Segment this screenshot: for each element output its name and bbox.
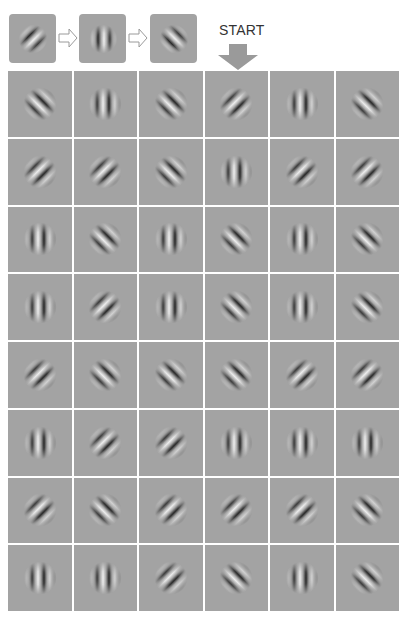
gabor-patch-icon xyxy=(205,342,269,407)
gabor-patch-icon xyxy=(270,478,334,543)
grid-cell-r5-c6 xyxy=(336,342,400,408)
grid-cell-r4-c5 xyxy=(270,274,334,340)
gabor-patch-icon xyxy=(270,139,334,204)
gabor-patch-icon xyxy=(8,342,72,407)
grid-cell-r1-c1 xyxy=(8,71,72,137)
gabor-patch-icon xyxy=(213,149,259,195)
grid-cell-r4-c2 xyxy=(74,274,138,340)
gabor-patch-icon xyxy=(8,478,72,543)
grid-cell-r6-c6 xyxy=(336,410,400,476)
gabor-patch-icon xyxy=(270,342,334,407)
grid-cell-r1-c5 xyxy=(270,71,334,137)
grid-cell-r2-c1 xyxy=(8,139,72,205)
gabor-patch-icon xyxy=(139,410,203,475)
gabor-patch-icon xyxy=(74,342,138,407)
grid-cell-r7-c4 xyxy=(205,478,269,544)
grid-cell-r6-c3 xyxy=(139,410,203,476)
gabor-patch-icon xyxy=(8,71,72,136)
grid-cell-r1-c4 xyxy=(205,71,269,137)
gabor-patch-icon xyxy=(8,139,72,204)
grid-cell-r5-c2 xyxy=(74,342,138,408)
gabor-patch-icon xyxy=(205,207,269,272)
grid-cell-r4-c3 xyxy=(139,274,203,340)
gabor-patch-icon xyxy=(74,275,138,340)
grid-cell-r8-c3 xyxy=(139,545,203,611)
gabor-patch-icon xyxy=(139,478,203,543)
grid-cell-r2-c5 xyxy=(270,139,334,205)
grid-cell-r1-c6 xyxy=(336,71,400,137)
gabor-patch-icon xyxy=(74,207,138,272)
gabor-patch-icon xyxy=(279,216,325,262)
grid-cell-r8-c6 xyxy=(336,545,400,611)
grid-cell-r5-c4 xyxy=(205,342,269,408)
gabor-patch-icon xyxy=(139,71,203,136)
grid-cell-r8-c5 xyxy=(270,545,334,611)
gabor-patch-icon xyxy=(205,478,269,543)
gabor-patch-icon xyxy=(279,555,325,601)
gabor-patch-icon xyxy=(205,71,269,136)
hollow-right-arrow-icon xyxy=(128,27,148,49)
gabor-patch-icon xyxy=(139,139,203,204)
grid-cell-r4-c1 xyxy=(8,274,72,340)
grid-cell-r6-c5 xyxy=(270,410,334,476)
grid-cell-r3-c5 xyxy=(270,207,334,273)
gabor-patch-icon xyxy=(336,139,400,204)
grid-cell-r8-c2 xyxy=(74,545,138,611)
gabor-patch-icon xyxy=(74,478,138,543)
grid-cell-r3-c2 xyxy=(74,207,138,273)
gabor-patch-icon xyxy=(336,478,400,543)
grid-cell-r6-c2 xyxy=(74,410,138,476)
gabor-grid xyxy=(8,71,399,611)
gabor-patch-icon xyxy=(279,81,325,127)
grid-cell-r7-c1 xyxy=(8,478,72,544)
gabor-patch-icon xyxy=(213,420,259,466)
grid-cell-r3-c3 xyxy=(139,207,203,273)
down-arrow-icon xyxy=(218,44,258,70)
grid-cell-r7-c6 xyxy=(336,478,400,544)
grid-cell-r2-c3 xyxy=(139,139,203,205)
gabor-patch-icon xyxy=(336,275,400,340)
sequence-legend: START xyxy=(0,0,405,70)
grid-cell-r5-c5 xyxy=(270,342,334,408)
gabor-patch-icon xyxy=(205,546,269,611)
gabor-patch-icon xyxy=(83,19,123,59)
gabor-patch-icon xyxy=(17,420,63,466)
gabor-patch-icon xyxy=(139,342,203,407)
gabor-patch-icon xyxy=(279,420,325,466)
grid-cell-r1-c3 xyxy=(139,71,203,137)
grid-cell-r6-c1 xyxy=(8,410,72,476)
grid-cell-r6-c4 xyxy=(205,410,269,476)
gabor-patch-icon xyxy=(148,284,194,330)
gabor-patch-icon xyxy=(9,14,56,63)
gabor-patch-icon xyxy=(74,139,138,204)
gabor-patch-icon xyxy=(82,81,128,127)
gabor-patch-icon xyxy=(205,275,269,340)
gabor-patch-icon xyxy=(150,14,197,63)
legend-patch-3 xyxy=(150,14,197,63)
grid-cell-r5-c3 xyxy=(139,342,203,408)
gabor-patch-icon xyxy=(139,546,203,611)
grid-cell-r3-c4 xyxy=(205,207,269,273)
grid-cell-r2-c4 xyxy=(205,139,269,205)
gabor-patch-icon xyxy=(336,342,400,407)
gabor-patch-icon xyxy=(17,216,63,262)
gabor-patch-icon xyxy=(336,71,400,136)
gabor-patch-icon xyxy=(82,555,128,601)
grid-cell-r8-c1 xyxy=(8,545,72,611)
grid-cell-r5-c1 xyxy=(8,342,72,408)
gabor-patch-icon xyxy=(74,410,138,475)
hollow-right-arrow-icon xyxy=(58,27,78,49)
grid-cell-r2-c2 xyxy=(74,139,138,205)
grid-cell-r4-c6 xyxy=(336,274,400,340)
gabor-patch-icon xyxy=(17,284,63,330)
grid-cell-r7-c3 xyxy=(139,478,203,544)
gabor-patch-icon xyxy=(17,555,63,601)
start-label: START xyxy=(219,22,265,38)
grid-cell-r8-c4 xyxy=(205,545,269,611)
gabor-patch-icon xyxy=(336,207,400,272)
gabor-patch-icon xyxy=(148,216,194,262)
grid-cell-r1-c2 xyxy=(74,71,138,137)
grid-cell-r3-c1 xyxy=(8,207,72,273)
legend-patch-2 xyxy=(79,14,126,63)
grid-cell-r7-c5 xyxy=(270,478,334,544)
